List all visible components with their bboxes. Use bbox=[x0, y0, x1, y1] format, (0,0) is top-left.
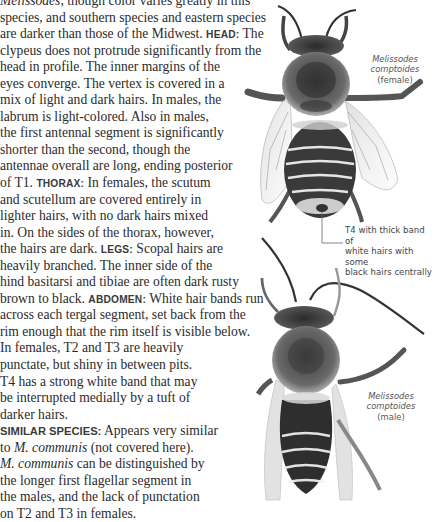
male-caption: Melissodes comptoides (male) bbox=[358, 391, 424, 422]
male-caption-species: comptoides bbox=[367, 401, 416, 411]
female-caption-genus: Melissodes bbox=[372, 54, 418, 64]
female-bee bbox=[248, 6, 420, 222]
t4-annotation: T4 with thick band of white hairs with s… bbox=[345, 225, 435, 278]
female-caption: Melissodes comptoides (female) bbox=[362, 54, 428, 85]
annotation-line-1: T4 with thick band of bbox=[345, 225, 425, 246]
text-line: on T2 and T3 in females. bbox=[0, 506, 260, 522]
female-caption-sex: (female) bbox=[377, 75, 412, 85]
female-caption-species: comptoides bbox=[371, 64, 420, 74]
male-caption-sex: (male) bbox=[377, 412, 404, 422]
male-caption-genus: Melissodes bbox=[368, 391, 414, 401]
annotation-line-2: white hairs with some bbox=[345, 246, 413, 267]
annotation-line-3: black hairs centrally bbox=[345, 267, 432, 277]
